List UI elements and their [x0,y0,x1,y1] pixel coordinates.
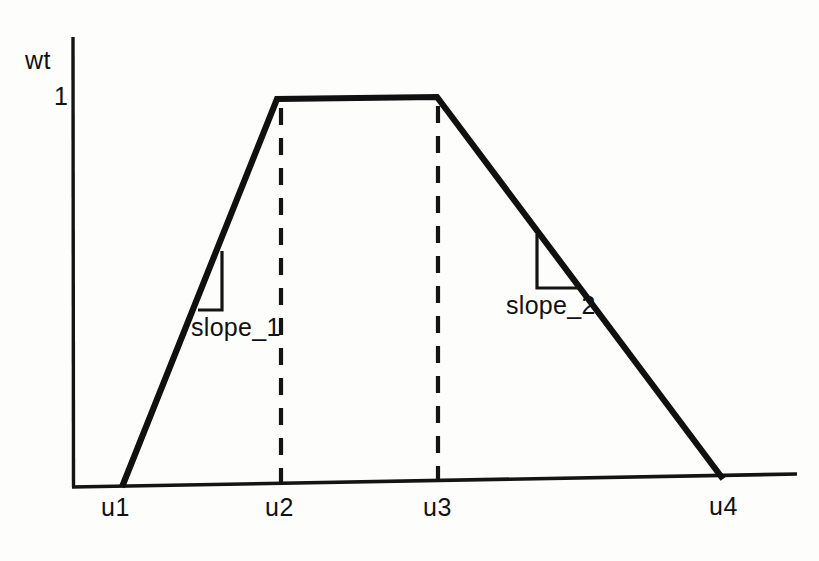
slope-1-label: slope_1 [191,315,281,340]
y-axis-label: wt [25,48,51,73]
x-tick-label-u3: u3 [423,495,452,520]
y-tick-label-1: 1 [54,84,68,109]
y-axis-line [73,37,74,487]
trapezoid-plot-svg [0,0,819,561]
x-tick-label-u1: u1 [101,495,130,520]
x-tick-label-u4: u4 [709,494,738,519]
x-axis-line [72,474,797,487]
trapezoid-curve [122,97,723,487]
x-tick-label-u2: u2 [265,495,294,520]
figure-canvas: wt 1 u1 u2 u3 u4 slope_1 slope_2 [0,0,819,561]
slope-2-label: slope_2 [506,293,596,318]
